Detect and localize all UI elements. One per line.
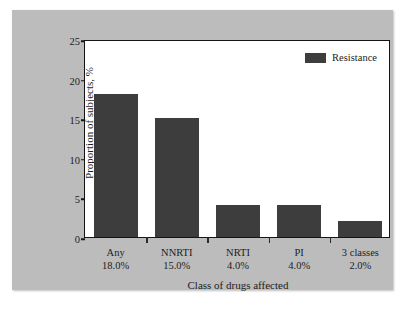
bar-nrti bbox=[216, 205, 260, 237]
x-label-value: 4.0% bbox=[226, 259, 250, 272]
plot-area: Proportion of subjects, % 0510152025 Any… bbox=[84, 40, 390, 238]
y-tick-label: 20 bbox=[70, 75, 81, 86]
x-label-value: 2.0% bbox=[342, 259, 379, 272]
y-tick-mark bbox=[81, 199, 85, 201]
x-label-category: Any bbox=[107, 247, 125, 258]
x-label-category: 3 classes bbox=[342, 247, 379, 258]
x-axis-label-3-classes: 3 classes2.0% bbox=[342, 246, 379, 272]
x-tick-mark bbox=[207, 237, 209, 243]
y-tick-mark bbox=[81, 80, 85, 82]
bar-any bbox=[94, 94, 138, 237]
x-tick-mark bbox=[146, 237, 148, 243]
figure-container: Proportion of subjects, % 0510152025 Any… bbox=[0, 0, 409, 309]
y-tick-label: 25 bbox=[70, 36, 81, 47]
bar-nnrti bbox=[155, 118, 199, 237]
x-axis-title: Class of drugs affected bbox=[85, 279, 391, 291]
y-tick-mark bbox=[81, 159, 85, 161]
x-label-value: 4.0% bbox=[288, 259, 310, 272]
figure-panel: Proportion of subjects, % 0510152025 Any… bbox=[12, 10, 393, 290]
chart-legend: Resistance bbox=[305, 52, 377, 63]
y-tick-label: 0 bbox=[75, 234, 80, 245]
x-axis-label-any: Any18.0% bbox=[102, 246, 129, 272]
bar-3-classes bbox=[338, 221, 382, 237]
x-label-category: NRTI bbox=[226, 247, 250, 258]
x-axis-label-nnrti: NNRTI15.0% bbox=[161, 246, 192, 272]
x-label-category: PI bbox=[295, 247, 304, 258]
legend-swatch-resistance bbox=[305, 53, 326, 63]
x-label-value: 15.0% bbox=[161, 259, 192, 272]
x-tick-mark bbox=[269, 237, 271, 243]
legend-label-resistance: Resistance bbox=[332, 52, 377, 63]
bar-pi bbox=[277, 205, 321, 237]
y-tick-mark bbox=[81, 40, 85, 42]
y-tick-label: 5 bbox=[75, 194, 80, 205]
x-axis-label-nrti: NRTI4.0% bbox=[226, 246, 250, 272]
y-tick-mark bbox=[81, 119, 85, 121]
y-tick-mark bbox=[81, 238, 85, 240]
x-tick-mark bbox=[330, 237, 332, 243]
x-axis-label-pi: PI4.0% bbox=[288, 246, 310, 272]
y-tick-label: 15 bbox=[70, 115, 81, 126]
x-label-value: 18.0% bbox=[102, 259, 129, 272]
x-label-category: NNRTI bbox=[161, 247, 192, 258]
y-tick-label: 10 bbox=[70, 154, 81, 165]
